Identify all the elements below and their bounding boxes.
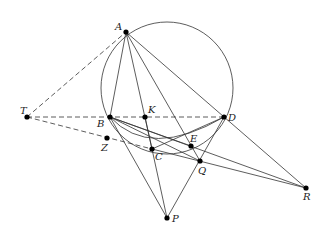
- label-t: T: [20, 105, 28, 116]
- point-e: [188, 143, 193, 148]
- geometry-diagram: ABKDTZCEQPR: [0, 0, 326, 237]
- label-a: A: [114, 21, 122, 32]
- circumcircle: [101, 22, 233, 154]
- point-r: [303, 185, 308, 190]
- label-d: D: [227, 112, 236, 123]
- label-r: R: [302, 191, 311, 202]
- label-e: E: [189, 133, 198, 144]
- label-q: Q: [198, 165, 206, 176]
- label-b: B: [96, 118, 104, 129]
- points: ABKDTZCEQPR: [20, 21, 311, 224]
- label-z: Z: [100, 142, 109, 153]
- point-q: [197, 158, 202, 163]
- point-c: [149, 146, 154, 151]
- label-k: K: [147, 104, 156, 115]
- label-p: P: [171, 213, 179, 224]
- label-c: C: [155, 151, 163, 162]
- point-k: [142, 114, 147, 119]
- point-z: [104, 135, 109, 140]
- solid-lines: [110, 32, 306, 218]
- point-d: [221, 114, 226, 119]
- point-a: [123, 29, 128, 34]
- point-p: [164, 215, 169, 220]
- point-b: [107, 114, 112, 119]
